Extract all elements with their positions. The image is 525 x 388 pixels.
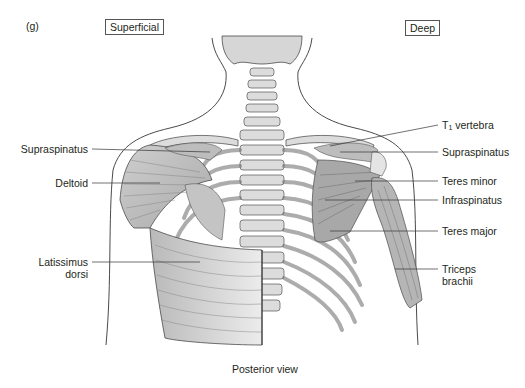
label-infraspinatus: Infraspinatus bbox=[442, 194, 502, 206]
panel-label: (g) bbox=[26, 20, 39, 32]
label-latissimus-dorsi: Latissimus dorsi bbox=[0, 256, 88, 280]
superficial-section-label: Superficial bbox=[105, 19, 164, 35]
label-supraspinatus-right: Supraspinatus bbox=[442, 146, 509, 158]
figure-caption: Posterior view bbox=[232, 363, 298, 375]
label-latissimus-line1: Latissimus bbox=[0, 256, 88, 268]
label-triceps-brachii: Triceps brachii bbox=[442, 263, 476, 287]
right-scapula bbox=[314, 143, 378, 162]
label-teres-minor: Teres minor bbox=[442, 175, 497, 187]
skull-base bbox=[222, 36, 302, 64]
label-latissimus-line2: dorsi bbox=[0, 268, 88, 280]
label-deltoid: Deltoid bbox=[0, 177, 88, 189]
deep-section-label: Deep bbox=[405, 20, 440, 36]
label-triceps-line1: Triceps bbox=[442, 263, 476, 275]
label-t1-rest: vertebra bbox=[452, 119, 493, 131]
label-triceps-line2: brachii bbox=[442, 275, 476, 287]
label-t1-vertebra: T1 vertebra bbox=[442, 119, 494, 134]
label-supraspinatus-left: Supraspinatus bbox=[0, 143, 88, 155]
label-teres-major: Teres major bbox=[442, 225, 497, 237]
